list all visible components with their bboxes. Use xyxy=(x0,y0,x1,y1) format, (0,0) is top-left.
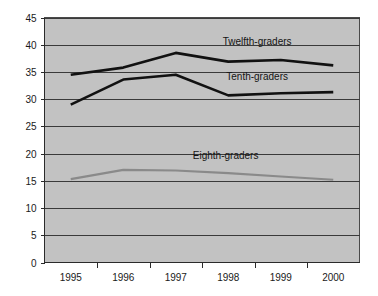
y-tick-label: 10 xyxy=(25,203,37,214)
y-tick-label: 45 xyxy=(25,13,37,24)
y-tick-label: 5 xyxy=(31,230,37,241)
x-tick-label-1997: 1997 xyxy=(165,272,188,283)
y-tick-label: 30 xyxy=(25,94,37,105)
x-tick-label-1996: 1996 xyxy=(112,272,135,283)
x-tick-label-1995: 1995 xyxy=(60,272,83,283)
y-tick-label: 0 xyxy=(31,258,37,269)
x-tick-label-1998: 1998 xyxy=(217,272,240,283)
series-label-eighth-graders: Eighth-graders xyxy=(193,150,259,161)
series-label-twelfth-graders: Twelfth-graders xyxy=(223,36,292,47)
chart-canvas: 051015202530354045 199519961997199819992… xyxy=(0,0,378,296)
y-tick-label: 35 xyxy=(25,67,37,78)
y-tick-label: 15 xyxy=(25,176,37,187)
y-tick-label: 20 xyxy=(25,149,37,160)
x-tick-label-2000: 2000 xyxy=(322,272,345,283)
x-tick-label-1999: 1999 xyxy=(270,272,293,283)
line-chart: 051015202530354045 199519961997199819992… xyxy=(0,0,378,296)
plot-area-background xyxy=(45,18,360,263)
series-label-tenth-graders: Tenth-graders xyxy=(226,71,288,82)
y-tick-label: 40 xyxy=(25,40,37,51)
y-tick-label: 25 xyxy=(25,121,37,132)
